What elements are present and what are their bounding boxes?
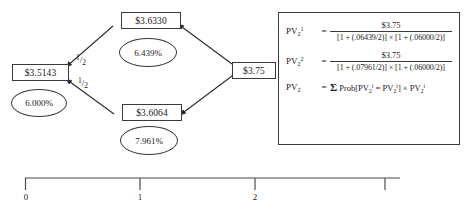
node-label-cash: $3.75: [243, 66, 265, 76]
formula-line-2: PV22 = $3.75 [1 + (.07961/2)] × [1 + (.0…: [286, 50, 452, 72]
node-label-up: $3.6330: [135, 16, 167, 26]
rate-label-down: 7.961%: [135, 136, 163, 146]
prob-expr-sup-3: i: [424, 83, 426, 89]
formula-box: PV21 = $3.75 [1 + (.06439/2)] × [1 + (.0…: [278, 12, 460, 145]
formula-line-3-expression: ΣProb[PV2i = PV2i] × PV2i: [330, 81, 425, 94]
formula-line-1-denominator: [1 + (.06439/2)] × [1 + (.06000/2)]: [330, 32, 452, 42]
prob-expr-post: ] × PV: [398, 83, 421, 93]
pv-sum-base: PV: [286, 82, 298, 92]
diagram-page: $3.6330 6.439% $3.5143 6.000% $3.6064 7.…: [0, 0, 469, 216]
pv2-superscript: 2: [301, 56, 304, 62]
prob-expr-mid: = PV: [373, 83, 393, 93]
formula-line-2-equals: =: [318, 56, 330, 66]
rate-label-up: 6.439%: [134, 48, 162, 58]
prob-expr-pre: Prob[PV: [339, 83, 369, 93]
timeline-label-2: 2: [247, 192, 263, 202]
rate-ellipse-root: 6.000%: [11, 89, 67, 117]
formula-line-1-fraction: $3.75 [1 + (.06439/2)] × [1 + (.06000/2)…: [330, 20, 452, 42]
prob-down-denominator: 2: [84, 81, 88, 90]
timeline-label-0: 0: [18, 192, 34, 202]
formula-line-3: PV2 = ΣProb[PV2i = PV2i] × PV2i: [286, 81, 452, 94]
edge-cash-to-up: [178, 24, 232, 64]
formula-line-2-numerator: $3.75: [330, 50, 452, 61]
formula-line-2-denominator: [1 + (.07961/2)] × [1 + (.06000/2)]: [330, 62, 452, 72]
node-box-cash: $3.75: [232, 62, 276, 79]
timeline-label-1: 1: [132, 192, 148, 202]
pv2-base: PV: [286, 56, 298, 66]
edge-label-prob-down: 1/2: [78, 77, 88, 90]
prob-up-denominator: 2: [82, 58, 86, 67]
edge-up-to-root: [66, 26, 113, 67]
formula-line-1-lhs: PV21: [286, 26, 318, 37]
node-box-up: $3.6330: [121, 12, 181, 29]
rate-ellipse-down: 7.961%: [120, 126, 178, 155]
node-box-down: $3.6064: [122, 104, 182, 121]
pv1-base: PV: [286, 26, 298, 36]
node-label-down: $3.6064: [136, 108, 168, 118]
node-box-root: $3.5143: [12, 64, 69, 81]
pv-sum-subscript: 2: [298, 87, 301, 93]
pv1-superscript: 1: [301, 26, 304, 32]
formula-line-3-lhs: PV2: [286, 82, 318, 93]
formula-line-1: PV21 = $3.75 [1 + (.06439/2)] × [1 + (.0…: [286, 20, 452, 42]
rate-ellipse-up: 6.439%: [119, 38, 177, 67]
formula-line-2-lhs: PV22: [286, 56, 318, 67]
edge-cash-to-down: [180, 76, 232, 115]
edge-label-prob-up: 1/2: [76, 54, 86, 67]
formula-line-1-numerator: $3.75: [330, 20, 452, 31]
formula-line-1-equals: =: [318, 26, 330, 36]
sigma-icon: Σ: [330, 81, 339, 93]
edge-down-to-root: [66, 79, 114, 114]
formula-line-2-fraction: $3.75 [1 + (.07961/2)] × [1 + (.06000/2)…: [330, 50, 452, 72]
node-label-root: $3.5143: [25, 68, 57, 78]
formula-line-3-equals: =: [318, 82, 330, 92]
rate-label-root: 6.000%: [25, 98, 53, 108]
